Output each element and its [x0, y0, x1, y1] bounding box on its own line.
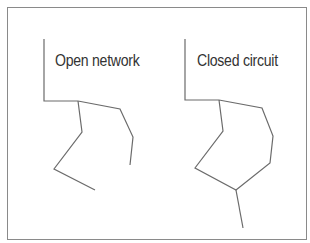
open-network-branch-a — [54, 101, 95, 190]
open-network-stem — [44, 39, 78, 101]
closed-circuit-label: Closed circuit — [197, 52, 278, 70]
open-network-branch-b — [78, 101, 133, 165]
network-diagram — [0, 0, 310, 243]
open-network-label: Open network — [55, 52, 139, 70]
closed-circuit-tail — [236, 190, 243, 228]
closed-circuit-loop — [195, 100, 273, 190]
